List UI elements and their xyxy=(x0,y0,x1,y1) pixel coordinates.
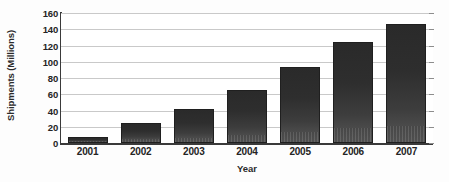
bar-series xyxy=(61,13,433,143)
bar[interactable] xyxy=(174,109,214,143)
y-tick-label: 120 xyxy=(18,40,58,51)
y-tick-label: 40 xyxy=(18,105,58,116)
bar-slot xyxy=(167,13,220,143)
x-tick-label: 2007 xyxy=(380,146,433,162)
y-axis-title: Shipments (Millions) xyxy=(0,0,20,150)
bar[interactable] xyxy=(386,24,426,143)
x-axis-tick-labels: 2001200220032004200520062007 xyxy=(61,146,433,162)
bar-slot xyxy=(114,13,167,143)
x-tick-label: 2003 xyxy=(167,146,220,162)
bar[interactable] xyxy=(68,137,108,143)
bar-slot xyxy=(274,13,327,143)
y-axis-tick-labels: 020406080100120140160 xyxy=(18,8,58,144)
bar-chart-figure: Shipments (Millions) 0204060801001201401… xyxy=(0,0,449,182)
bar-slot xyxy=(327,13,380,143)
y-tick-label: 20 xyxy=(18,121,58,132)
bar-slot xyxy=(61,13,114,143)
bar[interactable] xyxy=(121,123,161,143)
bar[interactable] xyxy=(333,42,373,143)
bar-slot xyxy=(380,13,433,143)
x-tick-label: 2004 xyxy=(220,146,273,162)
bar[interactable] xyxy=(227,90,267,143)
bar[interactable] xyxy=(280,67,320,143)
x-tick-label: 2006 xyxy=(327,146,380,162)
y-tick-label: 80 xyxy=(18,73,58,84)
x-tick-label: 2002 xyxy=(114,146,167,162)
y-tick-label: 140 xyxy=(18,24,58,35)
bar-slot xyxy=(220,13,273,143)
x-tick-label: 2005 xyxy=(274,146,327,162)
x-tick-label: 2001 xyxy=(61,146,114,162)
y-tick-label: 160 xyxy=(18,8,58,19)
y-tick-label: 100 xyxy=(18,56,58,67)
y-axis-title-text: Shipments (Millions) xyxy=(5,30,16,121)
right-edge-tick xyxy=(429,143,434,144)
x-axis-title: Year xyxy=(61,163,433,174)
axis-baseline xyxy=(61,143,433,145)
y-tick-label: 60 xyxy=(18,89,58,100)
y-tick-label: 0 xyxy=(18,138,58,149)
plot-area xyxy=(61,13,433,143)
